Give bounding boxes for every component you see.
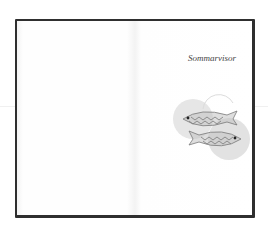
page-title: Sommarvisor bbox=[188, 53, 236, 63]
left-page bbox=[17, 21, 135, 215]
fish-illustration-icon bbox=[171, 89, 261, 161]
right-page: Sommarvisor bbox=[135, 21, 252, 215]
book-pages: Sommarvisor bbox=[17, 21, 252, 215]
